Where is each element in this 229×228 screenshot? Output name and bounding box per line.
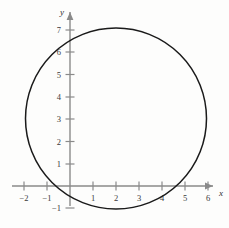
y-tick-label: 1	[57, 159, 61, 169]
x-tick-label: −1	[42, 193, 51, 203]
y-tick-label: 7	[57, 25, 61, 35]
x-axis-label: x	[218, 188, 223, 198]
x-tick-label: 5	[183, 193, 187, 203]
coordinate-plot: −2 −1 1 2 3 4 5 6 7 6 5 4 3 2 1 −1 x y	[0, 0, 229, 228]
y-tick-label: 5	[57, 70, 61, 80]
y-tick-label: 2	[57, 137, 61, 147]
x-tick-label: 3	[137, 193, 141, 203]
x-tick-label: −2	[19, 193, 28, 203]
x-tick-label: 1	[91, 193, 95, 203]
y-axis-label: y	[59, 7, 64, 17]
figure-container: −2 −1 1 2 3 4 5 6 7 6 5 4 3 2 1 −1 x y	[0, 0, 229, 228]
y-tick-label: −1	[52, 203, 61, 213]
x-tick-label: 6	[206, 193, 210, 203]
x-tick-label: 2	[114, 193, 118, 203]
y-tick-label: 3	[57, 114, 61, 124]
